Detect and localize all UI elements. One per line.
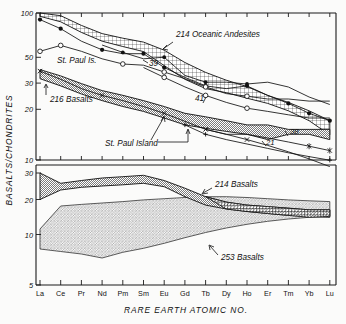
label-41: 41 (195, 94, 204, 103)
xtick-ce: Ce (56, 289, 65, 298)
annotation-214-basalts: 214 Basalts (202, 180, 258, 194)
label-39: 39 (149, 59, 159, 68)
upper-y-ticks (36, 13, 41, 160)
label-21: 21 (265, 138, 275, 147)
xtick-nd: Nd (97, 289, 106, 298)
ree-diagram: 214 Oceanic Andesites 39 St. Paul Is. 41… (0, 0, 346, 324)
xtick-pm: Pm (117, 289, 128, 298)
annotation-21: 21 (262, 138, 275, 147)
xtick-yb: Yb (305, 289, 314, 298)
xtick-ho: Ho (242, 289, 251, 298)
figure-container: 214 Oceanic Andesites 39 St. Paul Is. 41… (0, 0, 346, 324)
xtick-pr: Pr (78, 289, 86, 298)
x-axis-element-labels: La Ce Pr Nd Pm Sm Eu Gd Tb Dy Ho Er Tm Y… (36, 289, 334, 298)
upper-ytick-10: 10 (25, 156, 34, 165)
label-st-paul-island: St. Paul Island (105, 139, 158, 148)
lower-ytick-5: 5 (29, 281, 34, 290)
xtick-lu: Lu (326, 289, 334, 298)
xtick-sm: Sm (138, 289, 149, 298)
upper-top-ticks (40, 13, 330, 17)
label-216-basalts: 216 Basalts (49, 95, 93, 104)
upper-ytick-30: 30 (25, 79, 34, 88)
xtick-dy: Dy (222, 289, 231, 298)
xtick-gd: Gd (180, 289, 190, 298)
annotation-253-basalts: 253 Basalts (209, 245, 264, 262)
lower-ytick-10: 10 (25, 231, 34, 240)
label-214-basalts: 214 Basalts (214, 180, 258, 189)
label-214-oceanic-andesites: 214 Oceanic Andesites (175, 30, 260, 39)
upper-ytick-50: 50 (25, 53, 34, 62)
x-axis-title: RARE EARTH ATOMIC NO. (124, 305, 248, 315)
xtick-tm: Tm (283, 289, 293, 298)
annotation-st-paul-is: St. Paul Is. (57, 56, 97, 65)
lower-panel: 214 Basalts 253 Basalts (24, 165, 336, 290)
xtick-er: Er (264, 289, 272, 298)
xtick-la: La (36, 289, 44, 298)
xtick-tb: Tb (201, 289, 209, 298)
label-st-paul-is: St. Paul Is. (57, 56, 97, 65)
lower-ytick-20: 20 (24, 196, 34, 205)
xtick-eu: Eu (160, 289, 169, 298)
upper-bottom-ticks (40, 156, 330, 160)
upper-ytick-100: 100 (21, 9, 34, 18)
upper-panel: 214 Oceanic Andesites 39 St. Paul Is. 41… (21, 9, 336, 167)
upper-ytick-20: 20 (24, 105, 34, 114)
lower-bottom-ticks (40, 280, 330, 285)
annotation-214-oceanic-andesites: 214 Oceanic Andesites (163, 30, 260, 50)
label-38: 38 (290, 127, 299, 136)
lower-ytick-30: 30 (25, 169, 34, 178)
y-axis-title: BASALTS/CHONDRITES (4, 95, 14, 206)
label-253-basalts: 253 Basalts (220, 253, 264, 262)
annotation-39: 39 (143, 59, 159, 68)
band-253-basalts (40, 197, 330, 258)
